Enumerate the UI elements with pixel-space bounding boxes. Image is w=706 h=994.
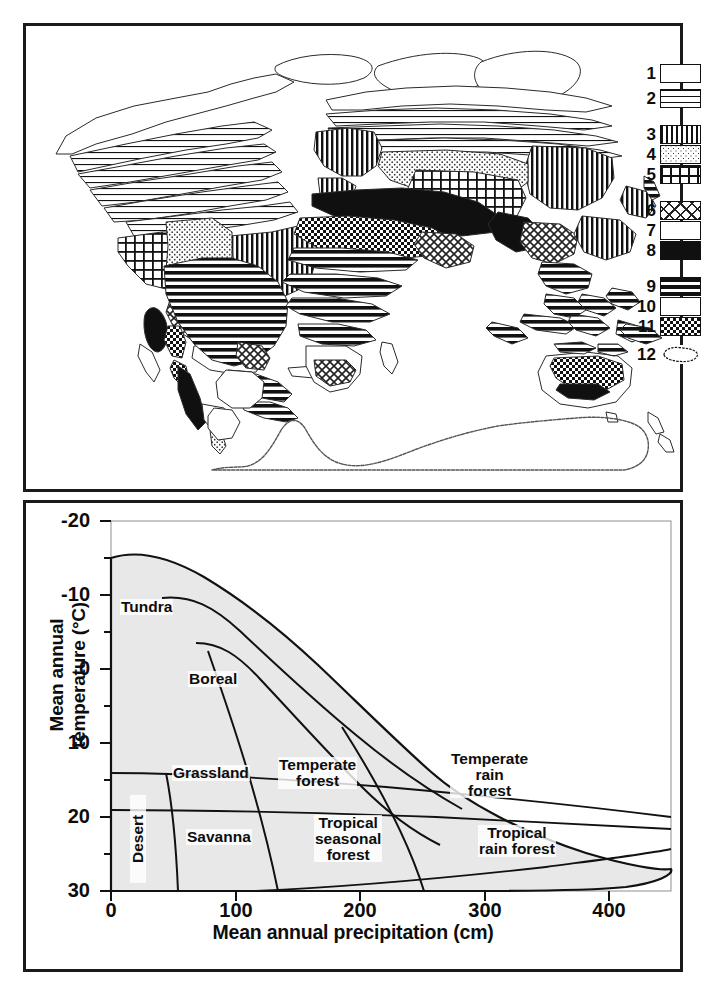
legend-item-2[interactable]: 2 <box>630 89 701 108</box>
jagged-shape-icon <box>660 345 701 364</box>
legend-item-12[interactable]: 12 <box>630 345 701 364</box>
legend-item-3[interactable]: 3 <box>630 125 701 144</box>
legend-item-10[interactable]: 10 <box>630 297 701 316</box>
legend-item-1[interactable]: 1 <box>630 64 701 83</box>
legend-item-8[interactable]: 8 <box>630 241 701 260</box>
legend-number: 5 <box>630 166 656 183</box>
legend-swatch-horizontal-thick-bands <box>660 277 701 296</box>
biome-label-tropical-rain-forest: Tropical rain forest <box>478 825 556 857</box>
x-tick-label: 200 <box>330 899 390 922</box>
legend-swatch-blank-white <box>660 64 701 83</box>
legend-swatch-vertical-thick-lines <box>660 125 701 144</box>
legend-item-4[interactable]: 4 <box>630 145 701 164</box>
biome-label-temperate-rain-forest: Temperate rain forest <box>450 751 529 798</box>
y-tick-label: -20 <box>34 509 90 532</box>
x-tick-label: 300 <box>455 899 515 922</box>
legend-swatch-checkerboard <box>660 317 701 336</box>
y-tick-label: 20 <box>34 805 90 828</box>
legend-number: 10 <box>630 298 656 315</box>
legend-swatch-blank-white-3 <box>660 297 701 316</box>
legend-swatch-cross-hatch-grid <box>660 165 701 184</box>
legend-number: 3 <box>630 126 656 143</box>
legend-swatch-horizontal-thin-lines <box>660 89 701 108</box>
y-axis-ticks <box>100 521 111 891</box>
world-map-graphic <box>26 26 680 489</box>
biome-label-savanna: Savanna <box>186 829 252 845</box>
x-tick-label: 100 <box>206 899 266 922</box>
legend-item-6[interactable]: 6 <box>630 201 701 220</box>
legend-swatch-diagonal-lattice <box>660 201 701 220</box>
legend-number: 6 <box>630 202 656 219</box>
map-legend: 1 2 3 4 5 6 <box>630 64 706 374</box>
x-tick-label: 0 <box>81 899 141 922</box>
legend-number: 11 <box>630 318 656 335</box>
legend-swatch-blank-white-2 <box>660 221 701 240</box>
legend-number: 12 <box>630 346 656 363</box>
legend-swatch-solid-black <box>660 241 701 260</box>
y-axis-title: Mean annual temperature (°C) <box>46 565 90 785</box>
biome-label-desert: Desert <box>130 795 146 883</box>
legend-item-9[interactable]: 9 <box>630 277 701 296</box>
legend-number: 7 <box>630 222 656 239</box>
legend-item-11[interactable]: 11 <box>630 317 701 336</box>
legend-item-5[interactable]: 5 <box>630 165 701 184</box>
world-map-panel: 1 2 3 4 5 6 <box>23 23 683 492</box>
x-axis-title: Mean annual precipitation (cm) <box>26 921 680 944</box>
legend-swatch-jagged-outline-shape <box>660 345 701 364</box>
biome-label-boreal: Boreal <box>188 671 238 687</box>
biome-label-temperate-forest: Temperate forest <box>278 757 357 789</box>
legend-number: 8 <box>630 242 656 259</box>
biome-label-grassland: Grassland <box>172 765 250 781</box>
x-tick-label: 400 <box>579 899 639 922</box>
legend-number: 1 <box>630 65 656 82</box>
biome-label-tropical-seasonal-forest: Tropical seasonal forest <box>314 815 382 862</box>
whittaker-diagram-panel: -20 -10 0 10 20 30 0 100 200 300 400 Mea… <box>23 500 683 972</box>
legend-number: 4 <box>630 146 656 163</box>
biome-figure: 1 2 3 4 5 6 <box>0 0 706 994</box>
legend-item-7[interactable]: 7 <box>630 221 701 240</box>
biome-label-tundra: Tundra <box>120 599 173 615</box>
legend-swatch-fine-dots-stipple <box>660 145 701 164</box>
legend-number: 2 <box>630 90 656 107</box>
legend-number: 9 <box>630 278 656 295</box>
